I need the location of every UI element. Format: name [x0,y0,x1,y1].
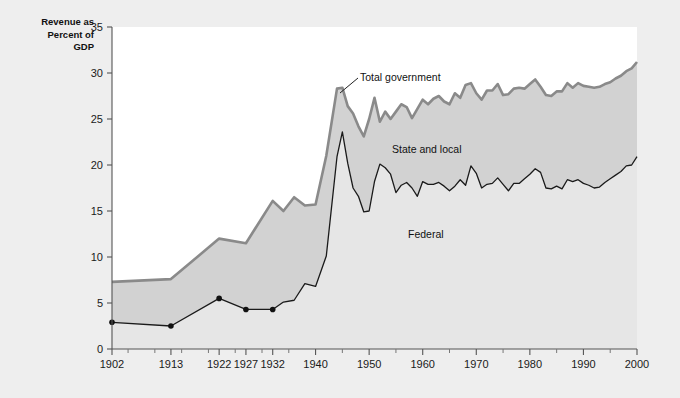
x-tick-label: 1960 [410,358,434,370]
y-tick-label: 35 [91,21,103,33]
x-tick-label: 1990 [571,358,595,370]
x-axis-tick-labels: 1902191319221927193219401950196019701980… [100,358,649,370]
x-tick-label: 1913 [159,358,183,370]
x-tick-label: 1980 [518,358,542,370]
chart-figure: Revenue as Percent of GDP 05101520253035… [0,0,680,398]
x-tick-label: 1932 [260,358,284,370]
x-tick-label: 1927 [234,358,258,370]
y-tick-label: 10 [91,251,103,263]
y-axis-tick-labels: 05101520253035 [91,21,103,355]
annotation-total-government: Total government [360,71,441,83]
annotation-federal: Federal [408,228,444,240]
x-tick-label: 2000 [625,358,649,370]
x-tick-label: 1970 [464,358,488,370]
annotation-state-and-local: State and local [392,143,461,155]
y-tick-label: 5 [97,297,103,309]
y-tick-label: 0 [97,343,103,355]
y-tick-label: 25 [91,113,103,125]
y-tick-label: 30 [91,67,103,79]
x-tick-label: 1950 [357,358,381,370]
x-tick-label: 1940 [303,358,327,370]
revenue-gdp-area-chart: 05101520253035 1902191319221927193219401… [0,0,680,398]
x-tick-label: 1902 [100,358,124,370]
y-tick-label: 20 [91,159,103,171]
y-tick-label: 15 [91,205,103,217]
x-tick-label: 1922 [207,358,231,370]
